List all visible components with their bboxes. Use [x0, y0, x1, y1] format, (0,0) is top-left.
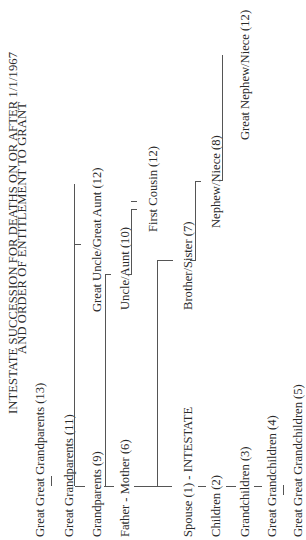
connector-spouse-children — [198, 486, 206, 487]
label-uncle-aunt: Uncle/Aunt (10) — [118, 227, 132, 310]
connector-nephew-top — [195, 181, 201, 182]
connector-p-link — [104, 486, 114, 487]
connector-parent-vertical — [157, 260, 158, 486]
connector-gp-link — [75, 486, 85, 487]
label-children: Children (2) — [209, 475, 223, 537]
connector-cousin-top — [131, 209, 137, 210]
connector-tick-ggp — [51, 476, 52, 486]
connector-uncle-cousin-vertical — [131, 209, 132, 275]
label-spouse-intestate: Spouse (1) - INTESTATE — [181, 407, 195, 537]
label-father-mother: Father - Mother (6) — [118, 439, 132, 537]
connector-tick-ggc — [283, 485, 284, 495]
label-great-great-grandchildren: Great Great Grandchildren (5) — [291, 384, 305, 537]
connector-uncle-bottom — [126, 274, 132, 275]
connector-nephew-bottom — [218, 180, 223, 181]
label-first-cousin: First Cousin (12) — [146, 146, 160, 232]
diagram-title-line2: AND ORDER OF ENTITLEMENT TO GRANT — [15, 102, 29, 354]
connector-uncle-top — [105, 274, 111, 275]
connector-fm-spouse — [134, 486, 172, 487]
connector-sibling-bottom — [190, 260, 196, 261]
label-brother-sister: Brother/Sister (7) — [181, 222, 195, 311]
label-great-great-grandparents: Great Great Grandparents (13) — [33, 383, 47, 537]
label-nephew-niece: Nephew/Niece (8) — [209, 135, 223, 228]
connector-nephew-great-vertical — [222, 55, 223, 181]
label-great-nephew-niece: Great Nephew/Niece (12) — [238, 10, 252, 140]
connector-great-uncle-tick — [74, 244, 81, 245]
label-grandparents: Grandparents (9) — [90, 451, 104, 537]
connector-grandchildren-ggc — [254, 486, 262, 487]
connector-sibling-nephew-vertical — [195, 181, 196, 261]
connector-children-grandchildren — [226, 486, 236, 487]
connector-ggp-vertical — [74, 184, 75, 486]
label-great-uncle-aunt: Great Uncle/Great Aunt (12) — [90, 168, 104, 312]
connector-sibling-top — [157, 260, 173, 261]
connector-gp-vertical — [105, 274, 106, 486]
connector-cousin-tick — [131, 201, 137, 202]
label-grandchildren: Grandchildren (3) — [238, 446, 252, 537]
label-great-grandchildren: Great Grandchildren (4) — [265, 415, 279, 537]
